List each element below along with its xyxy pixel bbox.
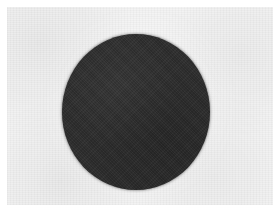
- disc-tone-overlay: [62, 34, 210, 190]
- figure-canvas: [0, 0, 280, 212]
- scanned-paper-background: [7, 7, 273, 205]
- dark-disc-shape: [62, 34, 210, 190]
- disc-grain-texture: [62, 34, 210, 190]
